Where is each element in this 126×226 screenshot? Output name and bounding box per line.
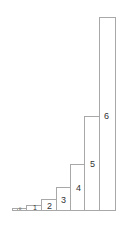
bar-label: 5 — [90, 160, 95, 169]
bar-label: 1 — [33, 204, 37, 211]
bar-label: 4 — [76, 184, 81, 193]
bar-label: 0 — [19, 207, 21, 211]
bar-label: 2 — [47, 202, 52, 211]
bar-label: 6 — [104, 112, 109, 121]
bar-label: 3 — [61, 196, 66, 205]
staircase-bar-chart: 0123456 — [0, 0, 126, 226]
